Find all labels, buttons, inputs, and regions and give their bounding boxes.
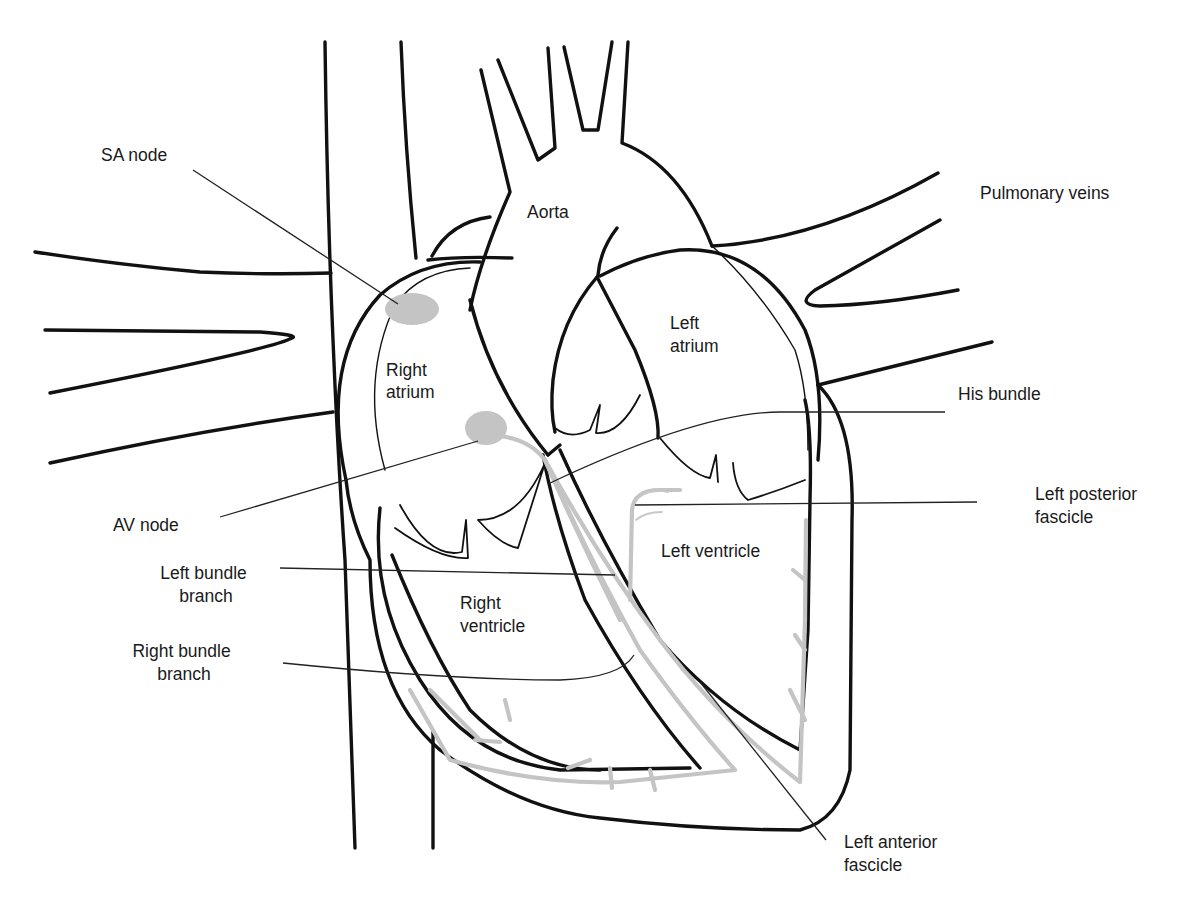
label-left-ventricle: Left ventricle [661,541,760,561]
callout-left-anterior-fascicle: Left anterior fascicle [844,832,942,875]
callout-sa-node: SA node [101,145,167,165]
right-atrium [338,262,548,480]
sa-node-shape [385,293,439,325]
av-node-shape [465,411,507,445]
callout-pulmonary-veins: Pulmonary veins [980,183,1110,203]
callout-his-bundle: His bundle [958,384,1041,404]
pulmonary-arteries-right-side [35,252,333,463]
leader-his-bundle [548,412,945,484]
callout-right-bundle-branch: Right bundle branch [132,641,235,684]
leader-right-bundle-branch [283,655,634,680]
heart-conduction-diagram: Aorta Right atrium Left atrium Right ven… [0,0,1193,906]
leader-sa-node [193,170,398,304]
leader-left-bundle-branch [280,568,615,575]
label-aorta: Aorta [527,202,569,222]
callout-labels: SA node Pulmonary veins His bundle AV no… [101,145,1142,875]
callout-left-bundle-branch: Left bundle branch [160,563,251,606]
callout-left-posterior-fascicle: Left posterior fascicle [1035,484,1142,527]
leader-left-posterior-fascicle [635,502,977,505]
label-right-ventricle: Right ventricle [460,593,525,636]
aortic-arch [428,42,712,310]
leader-left-anterior-fascicle [700,682,826,840]
pulmonary-veins [712,173,992,385]
label-left-atrium: Left atrium [670,313,719,356]
callout-av-node: AV node [113,515,179,535]
label-right-atrium: Right atrium [386,360,435,402]
